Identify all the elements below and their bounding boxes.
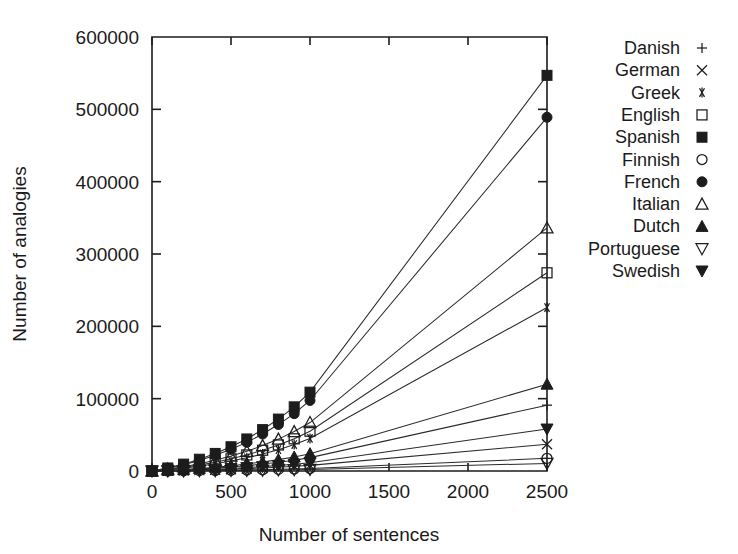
y-tick-label: 600000 — [76, 27, 139, 48]
y-tick-label: 0 — [128, 461, 139, 482]
y-tick-label: 500000 — [76, 99, 139, 120]
x-axis-title: Number of sentences — [259, 524, 440, 545]
x-tick-label: 500 — [215, 481, 247, 502]
x-tick-label: 2000 — [447, 481, 489, 502]
legend-label: English — [621, 105, 680, 125]
x-tick-label: 1500 — [368, 481, 410, 502]
x-tick-label: 0 — [147, 481, 158, 502]
analogies-vs-sentences-line-chart: 05001000150020002500 0100000200000300000… — [0, 0, 738, 554]
legend-label: Portuguese — [588, 239, 680, 259]
data-marker-filled-circle — [697, 177, 707, 187]
data-marker-filled-square — [697, 132, 707, 142]
legend-label: Greek — [631, 83, 681, 103]
legend-label: Finnish — [622, 150, 680, 170]
data-marker-filled-circle — [305, 395, 315, 405]
y-tick-label: 400000 — [76, 172, 139, 193]
y-axis-title: Number of analogies — [9, 166, 30, 341]
y-tick-label: 100000 — [76, 389, 139, 410]
chart-figure: 05001000150020002500 0100000200000300000… — [0, 0, 738, 554]
legend-label: Danish — [624, 38, 680, 58]
legend-label: Dutch — [633, 216, 680, 236]
y-tick-label: 300000 — [76, 244, 139, 265]
x-tick-label: 1000 — [289, 481, 331, 502]
data-marker-filled-circle — [542, 112, 552, 122]
x-tick-label: 2500 — [526, 481, 568, 502]
legend-label: German — [615, 60, 680, 80]
legend-label: Swedish — [612, 261, 680, 281]
data-marker-filled-circle — [273, 420, 283, 430]
y-tick-label: 200000 — [76, 316, 139, 337]
data-marker-filled-square — [542, 70, 552, 80]
legend-label: French — [624, 172, 680, 192]
legend-label: Italian — [632, 194, 680, 214]
data-marker-filled-circle — [289, 409, 299, 419]
data-marker-filled-circle — [258, 429, 268, 439]
legend-label: Spanish — [615, 127, 680, 147]
